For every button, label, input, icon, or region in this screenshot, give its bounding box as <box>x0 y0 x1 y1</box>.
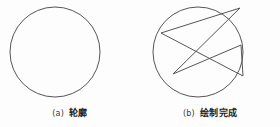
pentagram-drawing <box>140 0 280 104</box>
caption-a-label: (a) <box>52 109 64 118</box>
outline-circle <box>10 7 100 97</box>
subfigure-a: (a) 轮廓 <box>0 0 140 127</box>
caption-b: (b) 绘制完成 <box>140 104 280 121</box>
figure-panel: (a) 轮廓 (b) 绘制完成 <box>0 0 280 127</box>
caption-a: (a) 轮廓 <box>0 104 140 121</box>
inscribed-pentagram <box>161 8 243 76</box>
circle-outline-drawing <box>0 0 140 104</box>
caption-b-label: (b) <box>183 109 195 118</box>
subfigure-b: (b) 绘制完成 <box>140 0 280 127</box>
caption-a-text: 轮廓 <box>69 108 88 118</box>
caption-b-text: 绘制完成 <box>200 108 237 118</box>
